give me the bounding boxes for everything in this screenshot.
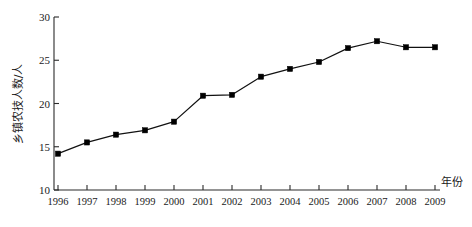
- x-tick-label-1999: 1999: [135, 196, 156, 207]
- x-tick-label-2003: 2003: [251, 196, 272, 207]
- y-tick-label-30: 30: [39, 11, 51, 23]
- x-tick-label-2009: 2009: [425, 196, 446, 207]
- data-point-1999: [142, 128, 147, 133]
- x-tick-label-2001: 2001: [193, 196, 214, 207]
- x-tick-label-1997: 1997: [77, 196, 98, 207]
- data-series-markers: [55, 39, 437, 157]
- x-tick-label-2000: 2000: [164, 196, 185, 207]
- y-axis-ticks: [54, 17, 59, 190]
- y-tick-label-15: 15: [39, 141, 51, 153]
- line-chart: 30 25 20 15 10 1996 1997 199: [0, 0, 472, 227]
- x-axis-ticks: [58, 185, 435, 190]
- chart-canvas: 30 25 20 15 10 1996 1997 199: [0, 0, 472, 227]
- data-point-2000: [171, 119, 176, 124]
- x-tick-label-1996: 1996: [48, 196, 69, 207]
- y-tick-label-10: 10: [39, 184, 51, 196]
- data-point-2005: [316, 59, 321, 64]
- x-tick-label-2008: 2008: [396, 196, 417, 207]
- data-point-2002: [229, 92, 234, 97]
- data-point-2003: [258, 74, 263, 79]
- x-axis-title: 年份: [441, 175, 463, 189]
- x-tick-label-2002: 2002: [222, 196, 243, 207]
- x-axis-tick-labels: 1996 1997 1998 1999 2000 2001 2002 2003 …: [48, 196, 446, 207]
- x-tick-label-2006: 2006: [338, 196, 359, 207]
- data-point-2009: [432, 45, 437, 50]
- data-point-2001: [200, 93, 205, 98]
- data-point-1997: [84, 140, 89, 145]
- x-tick-label-1998: 1998: [106, 196, 127, 207]
- data-point-1996: [55, 151, 60, 156]
- data-point-2006: [345, 46, 350, 51]
- x-tick-label-2004: 2004: [280, 196, 302, 207]
- y-axis-tick-labels: 30 25 20 15 10: [39, 11, 51, 196]
- x-tick-label-2007: 2007: [367, 196, 388, 207]
- data-point-1998: [113, 132, 118, 137]
- data-point-2008: [403, 45, 408, 50]
- y-tick-label-25: 25: [39, 54, 51, 66]
- y-tick-label-20: 20: [39, 98, 51, 110]
- y-axis-title: 乡镇农技人数/人: [11, 64, 25, 145]
- x-tick-label-2005: 2005: [309, 196, 330, 207]
- data-point-2004: [287, 66, 292, 71]
- data-point-2007: [374, 39, 379, 44]
